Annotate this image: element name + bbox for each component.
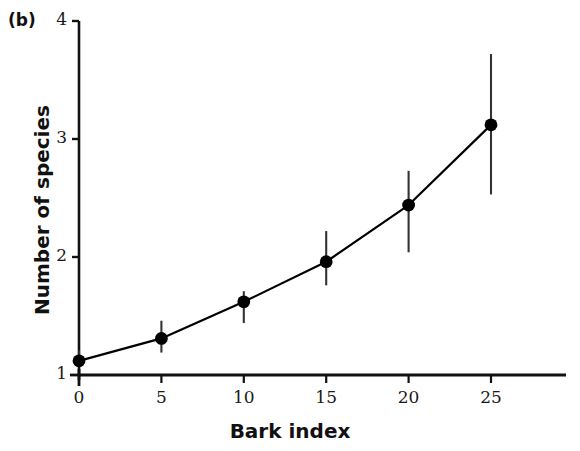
figure-panel-b: (b) Number of species Bark index 1234051… — [0, 0, 580, 451]
data-point-x25 — [485, 118, 498, 131]
series-line-layer — [79, 125, 491, 361]
y-tick-label-3: 3 — [33, 127, 67, 147]
x-tick-label-20: 20 — [384, 387, 434, 407]
series-line — [79, 125, 491, 361]
x-tick-label-5: 5 — [136, 387, 186, 407]
y-tick-label-2: 2 — [33, 245, 67, 265]
y-tick-label-4: 4 — [33, 9, 67, 29]
x-tick-label-25: 25 — [466, 387, 516, 407]
y-tick-label-1: 1 — [33, 363, 67, 383]
data-point-x20 — [402, 199, 415, 212]
x-tick-label-10: 10 — [219, 387, 269, 407]
error-bars-layer — [79, 54, 491, 361]
data-point-x10 — [237, 295, 250, 308]
data-point-x0 — [73, 354, 86, 367]
plot-area — [0, 0, 580, 451]
data-markers-layer — [73, 118, 498, 367]
x-tick-label-15: 15 — [301, 387, 351, 407]
x-tick-label-0: 0 — [54, 387, 104, 407]
data-point-x15 — [320, 255, 333, 268]
data-point-x5 — [155, 332, 168, 345]
